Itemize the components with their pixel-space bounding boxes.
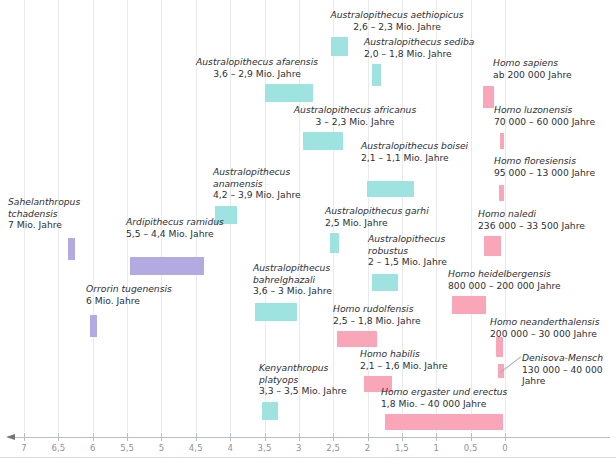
taxon-name: Australopithecus anamensis bbox=[213, 166, 290, 189]
label-homo-ergaster-und-erectus: Homo ergaster und erectus1,8 Mio. – 40 0… bbox=[381, 386, 523, 409]
axis-tick-label-5: 5 bbox=[147, 443, 175, 453]
label-australopithecus-boisei: Australopithecus boisei2,1 – 1,1 Mio. Ja… bbox=[361, 140, 473, 163]
axis-tick-label-4: 4 bbox=[216, 443, 244, 453]
label-homo-luzonensis: Homo luzonensis70 000 – 60 000 Jahre bbox=[494, 104, 612, 127]
taxon-daterange: 3,6 – 2,9 Mio. Jahre bbox=[213, 68, 301, 79]
label-australopithecus-garhi: Australopithecus garhi2,5 Mio. Jahre bbox=[325, 205, 437, 228]
axis-tick-2-5 bbox=[333, 433, 334, 441]
bar-ardipithecus-ramidus[interactable] bbox=[130, 257, 204, 275]
label-homo-naledi: Homo naledi236 000 – 33 500 Jahre bbox=[478, 208, 610, 231]
axis-tick-label-2: 2 bbox=[354, 443, 382, 453]
label-homo-sapiens: Homo sapiensab 200 000 Jahre bbox=[493, 57, 603, 80]
label-homo-habilis: Homo habilis2,1 – 1,6 Mio. Jahre bbox=[360, 348, 472, 371]
bar-homo-naledi[interactable] bbox=[484, 236, 501, 256]
taxon-daterange: 4,2 – 3,9 Mio. Jahre bbox=[213, 189, 301, 200]
taxon-name: Australopithecus robustus bbox=[368, 233, 445, 256]
taxon-daterange: 3,6 – 3 Mio. Jahre bbox=[253, 285, 332, 296]
axis-tick-label-7: 7 bbox=[10, 443, 38, 453]
bar-australopithecus-garhi[interactable] bbox=[330, 233, 339, 253]
bar-homo-ergaster-und-erectus[interactable] bbox=[385, 414, 503, 430]
label-orrorin-tugenensis: Orrorin tugenensis6 Mio. Jahre bbox=[86, 283, 196, 306]
taxon-daterange: 3 – 2,3 Mio. Jahre bbox=[316, 116, 395, 127]
axis-arrow-icon bbox=[6, 434, 15, 440]
label-kenyanthropus-platyops: Kenyanthropus platyops3,3 – 3,5 Mio. Jah… bbox=[259, 362, 369, 397]
axis-tick-6-5 bbox=[58, 433, 59, 441]
taxon-name: Australopithecus sediba bbox=[364, 36, 474, 47]
bar-australopithecus-bahrelghazali[interactable] bbox=[255, 303, 297, 321]
taxon-daterange: 2,6 – 2,3 Mio. Jahre bbox=[353, 21, 441, 32]
taxon-daterange: 6 Mio. Jahre bbox=[86, 295, 140, 306]
taxon-name: Homo ergaster und erectus bbox=[381, 386, 507, 397]
axis-tick-1 bbox=[436, 433, 437, 441]
bar-homo-neanderthalensis[interactable] bbox=[496, 337, 503, 357]
taxon-daterange: 5,5 – 4,4 Mio. Jahre bbox=[126, 228, 214, 239]
label-australopithecus-anamensis: Australopithecus anamensis4,2 – 3,9 Mio.… bbox=[213, 166, 325, 201]
axis-tick-label-4-5: 4,5 bbox=[182, 443, 210, 453]
bar-australopithecus-africanus[interactable] bbox=[303, 132, 343, 150]
taxon-daterange: 2,1 – 1,6 Mio. Jahre bbox=[360, 360, 448, 371]
label-australopithecus-sediba: Australopithecus sediba2,0 – 1,8 Mio. Ja… bbox=[364, 36, 480, 59]
bottom-rule bbox=[0, 457, 616, 458]
label-australopithecus-robustus: Australopithecus robustus2 – 1,5 Mio. Ja… bbox=[368, 233, 468, 268]
taxon-daterange: 800 000 – 200 000 Jahre bbox=[448, 280, 561, 291]
taxon-daterange: 2,0 – 1,8 Mio. Jahre bbox=[364, 48, 452, 59]
axis-tick-label-0-5: 0,5 bbox=[457, 443, 485, 453]
bar-homo-floresiensis[interactable] bbox=[499, 185, 504, 201]
bar-homo-heidelbergensis[interactable] bbox=[452, 296, 486, 314]
taxon-name: Australopithecus afarensis bbox=[196, 56, 318, 67]
bar-sahelanthropus-tchadensis[interactable] bbox=[68, 238, 75, 260]
label-homo-floresiensis: Homo floresiensis95 000 – 13 000 Jahre bbox=[494, 155, 612, 178]
bar-kenyanthropus-platyops[interactable] bbox=[262, 402, 278, 420]
axis-tick-3 bbox=[299, 433, 300, 441]
axis-tick-1-5 bbox=[402, 433, 403, 441]
taxon-name: Homo naledi bbox=[478, 208, 536, 219]
axis-tick-label-3: 3 bbox=[285, 443, 313, 453]
axis-tick-4-5 bbox=[196, 433, 197, 441]
axis-line bbox=[14, 437, 610, 438]
taxon-name: Homo luzonensis bbox=[494, 104, 572, 115]
bar-australopithecus-sediba[interactable] bbox=[372, 64, 381, 86]
taxon-name: Homo neanderthalensis bbox=[490, 316, 599, 327]
taxon-daterange: 95 000 – 13 000 Jahre bbox=[494, 167, 595, 178]
taxon-name: Australopithecus garhi bbox=[325, 205, 429, 216]
taxon-daterange: 2,1 – 1,1 Mio. Jahre bbox=[361, 152, 449, 163]
taxon-name: Sahelanthropus tchadensis bbox=[8, 196, 80, 219]
taxon-name: Australopithecus africanus bbox=[294, 104, 416, 115]
label-homo-neanderthalensis: Homo neanderthalensis200 000 – 30 000 Ja… bbox=[490, 316, 612, 339]
bar-homo-rudolfensis[interactable] bbox=[337, 331, 377, 347]
label-australopithecus-aethiopicus: Australopithecus aethiopicus2,6 – 2,3 Mi… bbox=[323, 9, 471, 32]
bar-australopithecus-aethiopicus[interactable] bbox=[331, 37, 348, 56]
label-homo-heidelbergensis: Homo heidelbergensis800 000 – 200 000 Ja… bbox=[448, 268, 588, 291]
taxon-name: Denisova-Mensch bbox=[522, 352, 603, 363]
label-ardipithecus-ramidus: Ardipithecus ramidus5,5 – 4,4 Mio. Jahre bbox=[126, 216, 246, 239]
bar-orrorin-tugenensis[interactable] bbox=[90, 315, 97, 337]
axis-tick-6 bbox=[93, 433, 94, 441]
axis-tick-2 bbox=[368, 433, 369, 441]
label-australopithecus-bahrelghazali: Australopithecus bahrelghazali3,6 – 3 Mi… bbox=[253, 262, 365, 297]
label-australopithecus-afarensis: Australopithecus afarensis3,6 – 2,9 Mio.… bbox=[183, 56, 331, 79]
taxon-daterange: 1,8 Mio. – 40 000 Jahre bbox=[381, 398, 486, 409]
taxon-daterange: 130 000 – 40 000 Jahre bbox=[522, 364, 603, 387]
axis-tick-label-1-5: 1,5 bbox=[388, 443, 416, 453]
bar-australopithecus-boisei[interactable] bbox=[367, 181, 414, 197]
bar-australopithecus-afarensis[interactable] bbox=[265, 84, 313, 102]
taxon-daterange: ab 200 000 Jahre bbox=[493, 69, 572, 80]
axis-tick-0-5 bbox=[471, 433, 472, 441]
bar-homo-luzonensis[interactable] bbox=[500, 133, 504, 149]
taxon-daterange: 2,5 – 1,8 Mio. Jahre bbox=[333, 315, 421, 326]
axis-tick-7 bbox=[24, 433, 25, 441]
taxon-daterange: 200 000 – 30 000 Jahre bbox=[490, 328, 597, 339]
bar-australopithecus-robustus[interactable] bbox=[372, 274, 398, 291]
taxon-name: Australopithecus boisei bbox=[361, 140, 468, 151]
taxon-name: Australopithecus aethiopicus bbox=[330, 9, 463, 20]
taxon-name: Homo heidelbergensis bbox=[448, 268, 551, 279]
taxon-name: Ardipithecus ramidus bbox=[126, 216, 224, 227]
axis-tick-5 bbox=[161, 433, 162, 441]
axis-tick-label-3-5: 3,5 bbox=[251, 443, 279, 453]
taxon-name: Kenyanthropus platyops bbox=[259, 362, 328, 385]
axis-tick-label-6-5: 6,5 bbox=[44, 443, 72, 453]
label-australopithecus-africanus: Australopithecus africanus3 – 2,3 Mio. J… bbox=[290, 104, 420, 127]
bar-homo-sapiens[interactable] bbox=[483, 86, 494, 108]
axis-tick-5-5 bbox=[127, 433, 128, 441]
taxon-name: Australopithecus bahrelghazali bbox=[253, 262, 330, 285]
